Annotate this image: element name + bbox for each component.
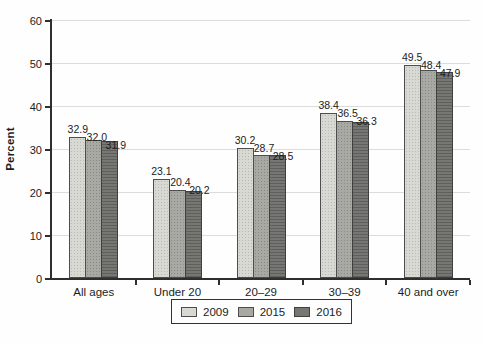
bar-2016 (436, 72, 453, 278)
value-label: 31.9 (94, 139, 138, 151)
value-label: 23.1 (139, 165, 183, 177)
bar-2009 (320, 113, 337, 278)
y-axis-line (50, 19, 52, 278)
gridline (52, 63, 470, 64)
y-tick-mark (45, 63, 50, 65)
y-tick-label: 20 (12, 186, 42, 200)
y-tick-mark (45, 235, 50, 237)
legend-swatch (181, 307, 197, 317)
y-tick-label: 60 (12, 14, 42, 28)
bar-2016 (352, 122, 369, 278)
value-label: 28.5 (261, 150, 305, 162)
bar-2015 (336, 121, 353, 278)
value-label: 47.9 (428, 67, 472, 79)
bar-2016 (269, 155, 286, 278)
legend: 200920152016 (171, 299, 352, 324)
category-label: 20–29 (219, 285, 303, 299)
bar-2009 (404, 65, 421, 278)
bar-2016 (185, 191, 202, 278)
y-tick-label: 40 (12, 100, 42, 114)
y-tick-label: 50 (12, 57, 42, 71)
y-tick-label: 0 (12, 272, 42, 286)
x-axis-line (50, 278, 470, 280)
bar-2015 (169, 190, 186, 278)
y-tick-label: 30 (12, 143, 42, 157)
legend-swatch (238, 307, 254, 317)
bar-2015 (85, 140, 102, 278)
value-label: 20.2 (177, 184, 221, 196)
legend-swatch (294, 307, 310, 317)
category-label: Under 20 (136, 285, 220, 299)
legend-item-2016: 2016 (294, 306, 342, 318)
category-label: All ages (52, 285, 136, 299)
y-tick-mark (45, 149, 50, 151)
bar-2015 (420, 70, 437, 278)
legend-item-2015: 2015 (238, 306, 286, 318)
gridline (52, 20, 470, 21)
y-tick-mark (45, 20, 50, 22)
bar-2015 (253, 155, 270, 278)
legend-label: 2016 (316, 306, 342, 318)
y-tick-label: 10 (12, 229, 42, 243)
category-label: 40 and over (386, 285, 470, 299)
bar-2009 (237, 148, 254, 278)
bar-2016 (101, 141, 118, 278)
legend-item-2009: 2009 (181, 306, 229, 318)
legend-label: 2009 (203, 306, 229, 318)
legend-label: 2015 (260, 306, 286, 318)
y-tick-mark (45, 278, 50, 280)
bar-chart-figure: Percent 200920152016 010203040506032.932… (0, 0, 483, 343)
y-tick-mark (45, 192, 50, 194)
value-label: 36.3 (345, 115, 389, 127)
bar-2009 (69, 137, 86, 278)
category-label: 30–39 (303, 285, 387, 299)
bar-2009 (153, 179, 170, 278)
y-tick-mark (45, 106, 50, 108)
